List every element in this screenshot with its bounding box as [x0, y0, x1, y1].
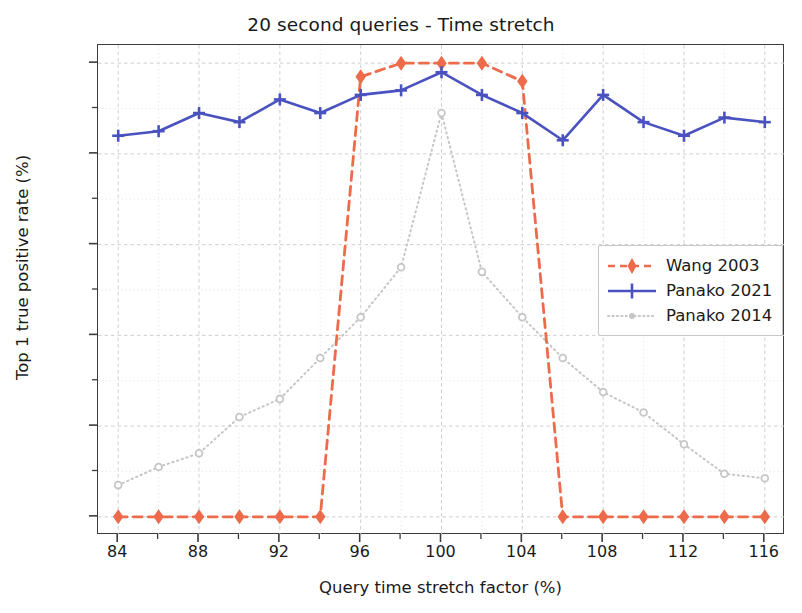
data-point-marker [721, 470, 728, 477]
data-point-marker [678, 130, 690, 142]
data-point-marker [234, 509, 244, 524]
legend-swatch-panako-2021-icon [607, 280, 657, 302]
legend-label-panako-2014: Panako 2014 [666, 306, 772, 325]
data-point-marker [236, 414, 243, 421]
data-point-marker [640, 409, 647, 416]
data-point-marker [153, 125, 165, 137]
legend-entry-panako-2021: Panako 2021 [607, 278, 772, 303]
legend-swatch-wang-2003-icon [607, 255, 657, 277]
data-point-marker [194, 509, 204, 524]
data-point-marker [719, 509, 729, 524]
legend-entry-panako-2014: Panako 2014 [607, 303, 772, 328]
data-point-marker [274, 93, 286, 105]
chart-legend: Wang 2003 Panako 2021 Panako 2014 [598, 245, 783, 336]
data-point-marker [115, 482, 122, 489]
data-point-marker [196, 450, 203, 457]
data-point-marker [395, 84, 407, 96]
data-point-marker [276, 395, 283, 402]
data-point-marker [317, 355, 324, 362]
data-point-marker [275, 509, 285, 524]
data-point-marker [355, 69, 365, 84]
data-point-marker [558, 509, 568, 524]
data-point-marker [357, 314, 364, 321]
data-point-marker [436, 66, 448, 78]
data-point-marker [638, 509, 648, 524]
data-point-marker [396, 56, 406, 71]
x-tick-label: 100 [425, 542, 456, 561]
data-point-marker [760, 509, 770, 524]
data-point-marker [517, 74, 527, 89]
x-tick-label: 104 [506, 542, 537, 561]
legend-entry-wang-2003: Wang 2003 [607, 253, 772, 278]
y-axis-label: Top 1 true positive rate (%) [13, 48, 32, 488]
data-point-marker [233, 116, 245, 128]
data-point-marker [315, 509, 325, 524]
data-point-marker [761, 475, 768, 482]
data-point-marker [113, 509, 123, 524]
legend-swatch-panako-2014-icon [607, 305, 657, 327]
data-point-marker [476, 89, 488, 101]
data-point-marker [718, 112, 730, 124]
data-point-marker [438, 110, 445, 117]
data-point-marker [112, 130, 124, 142]
data-point-marker [600, 389, 607, 396]
data-point-marker [398, 264, 405, 271]
x-tick-label: 92 [269, 542, 289, 561]
legend-label-wang-2003: Wang 2003 [666, 256, 760, 275]
x-tick-label: 112 [668, 542, 699, 561]
data-point-marker [153, 509, 163, 524]
data-point-marker [355, 89, 367, 101]
data-point-marker [679, 509, 689, 524]
data-point-marker [559, 355, 566, 362]
data-point-marker [759, 116, 771, 128]
data-point-marker [598, 509, 608, 524]
x-tick-label: 88 [188, 542, 208, 561]
data-point-marker [681, 441, 688, 448]
data-point-marker [519, 314, 526, 321]
chart-title: 20 second queries - Time stretch [0, 14, 802, 35]
x-tick-label: 96 [349, 542, 369, 561]
data-point-marker [477, 56, 487, 71]
data-point-marker [314, 107, 326, 119]
x-axis-label: Query time stretch factor (%) [97, 578, 784, 597]
x-tick-label: 116 [749, 542, 780, 561]
x-tick-label: 84 [107, 542, 127, 561]
chart-figure: 20 second queries - Time stretch Top 1 t… [0, 0, 802, 613]
data-point-marker [479, 268, 486, 275]
data-point-marker [155, 464, 162, 471]
x-tick-label: 108 [587, 542, 618, 561]
legend-label-panako-2021: Panako 2021 [666, 281, 772, 300]
